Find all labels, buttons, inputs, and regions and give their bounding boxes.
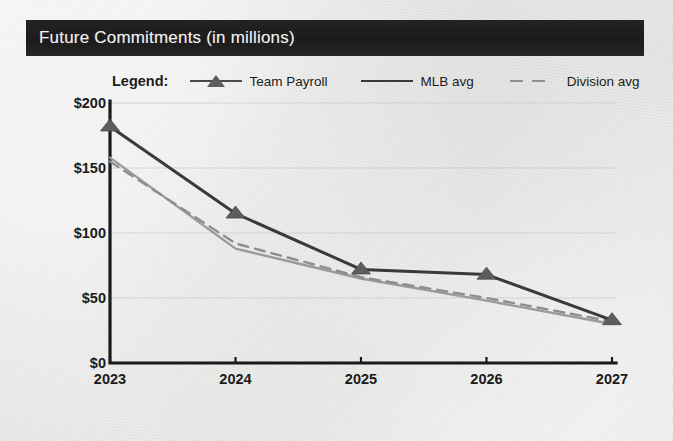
- chart-sheet: Future Commitments (in millions) Legend:…: [0, 0, 673, 441]
- y-axis-tick-label: $50: [82, 290, 106, 306]
- chart-axes: [110, 101, 616, 363]
- series-line-mlb-avg: [110, 158, 612, 324]
- y-axis-tick-label: $100: [74, 225, 106, 241]
- x-axis-tick-label: 2026: [470, 371, 502, 387]
- x-axis-tick-label: 2025: [345, 371, 377, 387]
- x-axis-tick-label: 2024: [219, 371, 251, 387]
- x-axis-tick-label: 2027: [596, 371, 628, 387]
- y-axis-tick-label: $200: [74, 95, 106, 111]
- y-axis-tick-label: $0: [90, 355, 106, 371]
- y-axis-tick-label: $150: [74, 160, 106, 176]
- data-point-marker: [101, 119, 120, 131]
- series-line-team-payroll: [110, 126, 612, 320]
- series-line-division-avg: [110, 162, 612, 322]
- x-axis-tick-label: 2023: [94, 371, 126, 387]
